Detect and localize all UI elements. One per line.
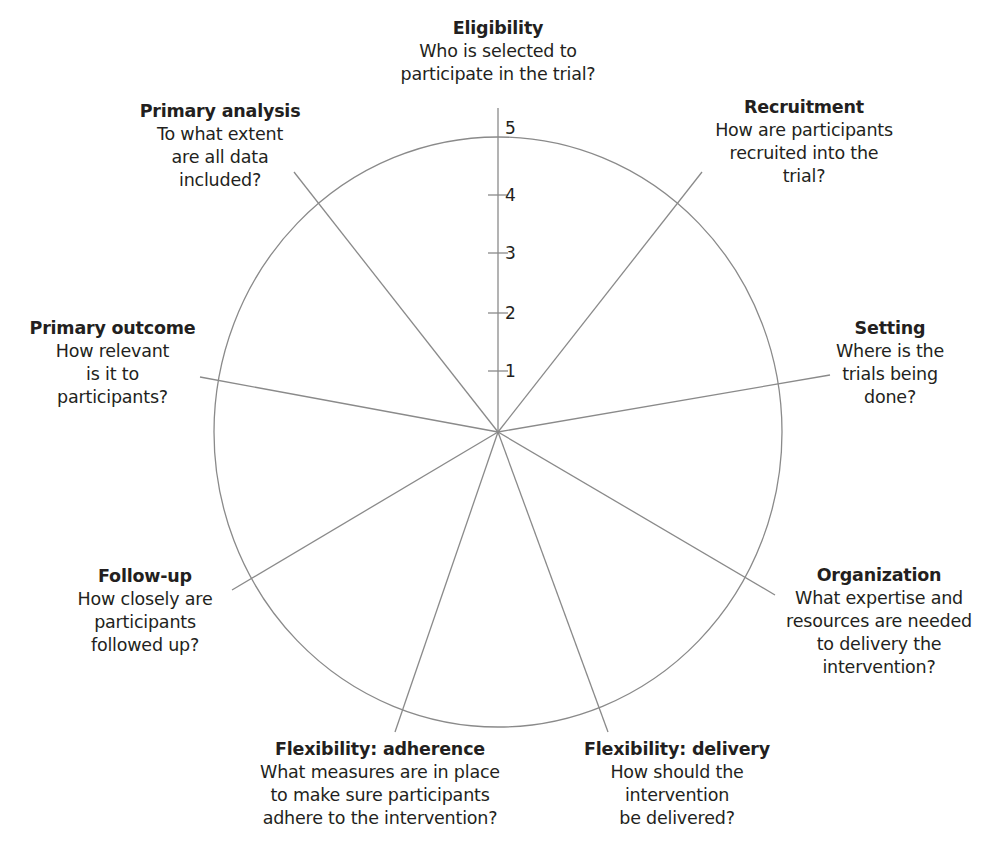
domain-flexibility-adherence: Flexibility: adherence What measures are…: [230, 738, 530, 830]
domain-question: What expertise and resources are needed …: [764, 587, 994, 679]
domain-title: Organization: [764, 564, 994, 587]
domain-question: How are participants recruited into the …: [684, 119, 924, 188]
tick-label-5: 5: [505, 118, 516, 138]
tick-label-2: 2: [505, 303, 516, 323]
domain-title: Primary analysis: [120, 100, 320, 123]
domain-question: What measures are in place to make sure …: [230, 761, 530, 830]
domain-title: Follow-up: [45, 565, 245, 588]
spoke-3: [498, 432, 775, 595]
domain-title: Flexibility: delivery: [562, 738, 792, 761]
domain-primary-analysis: Primary analysis To what extent are all …: [120, 100, 320, 192]
domain-question: How should the intervention be delivered…: [562, 761, 792, 830]
domain-title: Setting: [800, 317, 980, 340]
tick-label-4: 4: [505, 185, 516, 205]
spoke-8: [294, 172, 498, 432]
domain-setting: Setting Where is the trials being done?: [800, 317, 980, 409]
domain-question: How closely are participants followed up…: [45, 588, 245, 657]
domain-question: To what extent are all data included?: [120, 123, 320, 192]
domain-question: Where is the trials being done?: [800, 340, 980, 409]
domain-question: Who is selected to participate in the tr…: [348, 40, 648, 86]
spoke-5: [395, 432, 498, 732]
tick-label-1: 1: [505, 361, 516, 381]
spoke-6: [232, 432, 498, 590]
domain-eligibility: Eligibility Who is selected to participa…: [348, 17, 648, 86]
domain-flexibility-delivery: Flexibility: delivery How should the int…: [562, 738, 792, 830]
domain-title: Primary outcome: [15, 317, 210, 340]
domain-follow-up: Follow-up How closely are participants f…: [45, 565, 245, 657]
domain-title: Flexibility: adherence: [230, 738, 530, 761]
spoke-1: [498, 172, 702, 432]
domain-organization: Organization What expertise and resource…: [764, 564, 994, 679]
tick-label-3: 3: [505, 243, 516, 263]
spoke-4: [498, 432, 608, 732]
domain-primary-outcome: Primary outcome How relevant is it to pa…: [15, 317, 210, 409]
domain-title: Recruitment: [684, 96, 924, 119]
spoke-7: [200, 377, 498, 432]
domain-title: Eligibility: [348, 17, 648, 40]
domain-recruitment: Recruitment How are participants recruit…: [684, 96, 924, 188]
domain-question: How relevant is it to participants?: [15, 340, 210, 409]
